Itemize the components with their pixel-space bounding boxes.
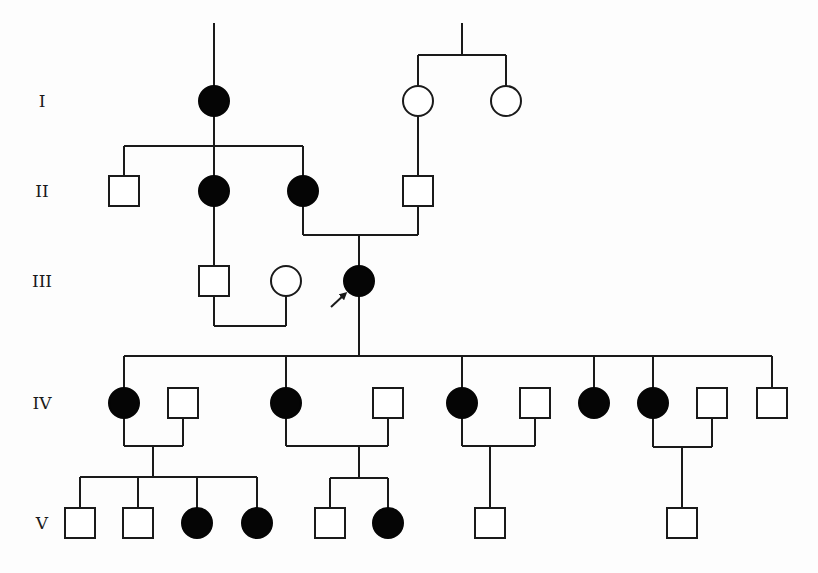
generation-label-v: V [35,513,49,533]
generation-label-ii: II [35,181,48,201]
unaffected-male-symbol [757,388,787,418]
unaffected-male-symbol [315,508,345,538]
affected-female-symbol [182,508,212,538]
affected-female-symbol [638,388,668,418]
unaffected-male-symbol [403,176,433,206]
affected-female-symbol [271,388,301,418]
affected-female-symbol [199,86,229,116]
affected-female-symbol [579,388,609,418]
affected-female-symbol [288,176,318,206]
unaffected-male-symbol [520,388,550,418]
unaffected-male-symbol [475,508,505,538]
generation-label-i: I [39,91,46,111]
generation-labels: IIIIIIIVV [32,91,52,533]
unaffected-male-symbol [373,388,403,418]
generation-label-iii: III [32,271,52,291]
unaffected-female-symbol [403,86,433,116]
unaffected-male-symbol [667,508,697,538]
affected-female-symbol [109,388,139,418]
unaffected-female-symbol [491,86,521,116]
unaffected-male-symbol [109,176,139,206]
pedigree-symbols [65,86,787,538]
proband-arrow-icon [331,294,345,307]
unaffected-female-symbol [271,266,301,296]
unaffected-male-symbol [199,266,229,296]
unaffected-male-symbol [123,508,153,538]
affected-female-symbol [373,508,403,538]
affected-female-proband-symbol [344,266,374,296]
pedigree-diagram: IIIIIIIVV [0,0,818,573]
affected-female-symbol [242,508,272,538]
unaffected-male-symbol [697,388,727,418]
generation-label-iv: IV [33,393,53,413]
affected-female-symbol [447,388,477,418]
affected-female-symbol [199,176,229,206]
unaffected-male-symbol [168,388,198,418]
unaffected-male-symbol [65,508,95,538]
